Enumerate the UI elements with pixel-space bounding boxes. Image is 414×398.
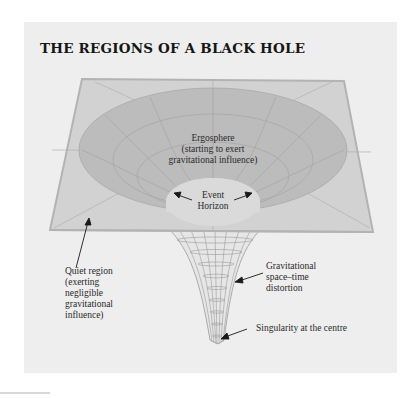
distortion-label-line: Gravitational	[266, 261, 356, 272]
distortion-label-line: distortion	[266, 283, 356, 294]
event-horizon-label: Event Horizon	[183, 190, 243, 212]
page-edge-divider	[0, 392, 50, 394]
singularity-label-line: Singularity at the centre	[256, 323, 396, 334]
quiet-region-label-line: gravitational	[65, 299, 155, 310]
event-horizon-label-line: Horizon	[183, 201, 243, 212]
ergosphere-label-line: (starting to exert	[150, 144, 276, 155]
singularity-label: Singularity at the centre	[256, 323, 396, 334]
gravity-well-funnel	[168, 228, 262, 344]
quiet-region-label-line: negligible	[65, 288, 155, 299]
quiet-region-label-line: influence)	[65, 310, 155, 321]
arrow-head-icon	[235, 277, 243, 283]
ergosphere-label-line: gravitational influence)	[150, 155, 276, 166]
quiet-region-label: Quiet region (exerting negligible gravit…	[65, 266, 155, 321]
distortion-label: Gravitational space–time distortion	[266, 261, 356, 294]
distortion-label-line: space–time	[266, 272, 356, 283]
ergosphere-label-line: Ergosphere	[150, 133, 276, 144]
event-horizon-label-line: Event	[183, 190, 243, 201]
quiet-region-label-line: (exerting	[65, 277, 155, 288]
quiet-region-label-line: Quiet region	[65, 266, 155, 277]
ergosphere-label: Ergosphere (starting to exert gravitatio…	[150, 133, 276, 166]
